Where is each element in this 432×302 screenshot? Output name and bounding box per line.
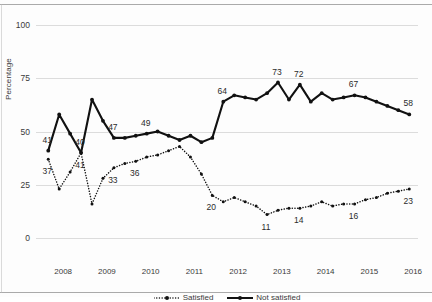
x-tick-2012: 2012 (229, 267, 247, 276)
marker (90, 98, 94, 102)
marker (353, 202, 356, 205)
marker (210, 136, 214, 140)
data-label-47: 47 (108, 122, 117, 132)
marker (112, 136, 116, 140)
solid-line-icon (227, 294, 253, 302)
marker (375, 100, 379, 104)
marker (309, 205, 312, 208)
marker (342, 96, 346, 100)
marker (342, 202, 345, 205)
marker (145, 156, 148, 159)
marker (178, 145, 181, 148)
marker (255, 205, 258, 208)
data-label-64: 64 (218, 86, 227, 96)
marker (396, 108, 400, 112)
x-tick-2014: 2014 (317, 267, 335, 276)
data-label-72: 72 (294, 69, 303, 79)
x-tick-2008: 2008 (54, 267, 72, 276)
x-tick-2013: 2013 (273, 267, 291, 276)
y-tick-75: 75 (21, 73, 30, 83)
page-left-rule (1, 4, 2, 293)
gridline-0 (36, 238, 418, 239)
marker (200, 140, 204, 144)
marker (266, 213, 269, 216)
y-tick-100: 100 (16, 20, 30, 30)
marker (320, 200, 323, 203)
marker (244, 200, 247, 203)
legend-item-satisfied[interactable]: Satisfied (154, 293, 214, 302)
marker (69, 170, 72, 173)
marker (408, 188, 411, 191)
page-top-rule (0, 4, 432, 5)
data-label-36: 36 (130, 168, 139, 178)
legend-label: Satisfied (183, 293, 214, 302)
marker (57, 113, 61, 117)
y-tick-25: 25 (21, 180, 30, 190)
marker (375, 196, 378, 199)
x-tick-2016: 2016 (404, 267, 422, 276)
marker (101, 119, 105, 123)
data-label-20: 20 (207, 202, 216, 212)
legend-item-not-satisfied[interactable]: Not satisfied (227, 293, 300, 302)
marker (58, 188, 61, 191)
data-label-11: 11 (262, 222, 271, 232)
marker (232, 93, 236, 97)
data-label-41: 41 (43, 135, 52, 145)
marker (243, 96, 247, 100)
data-label-40: 40 (75, 137, 84, 147)
line-not-satisfied (48, 83, 409, 153)
data-label-14: 14 (294, 215, 303, 225)
data-label-41: 41 (75, 160, 84, 170)
data-label-73: 73 (272, 67, 281, 77)
marker (397, 190, 400, 193)
marker (298, 83, 302, 87)
marker (287, 98, 291, 102)
marker (189, 134, 193, 138)
marker (385, 104, 389, 108)
marker (167, 149, 170, 152)
y-tick-50: 50 (21, 127, 30, 137)
x-tick-2011: 2011 (186, 267, 203, 276)
marker (134, 160, 137, 163)
x-tick-2015: 2015 (361, 267, 379, 276)
marker (47, 158, 50, 161)
marker (287, 207, 290, 210)
marker (79, 151, 83, 155)
marker (331, 98, 335, 102)
data-label-58: 58 (404, 98, 413, 108)
x-tick-2010: 2010 (142, 267, 160, 276)
y-axis-title: Percentage (4, 58, 13, 100)
data-label-37: 37 (43, 166, 52, 176)
marker (233, 196, 236, 199)
marker (221, 100, 225, 104)
marker (364, 198, 367, 201)
dotted-line-icon (154, 294, 180, 302)
marker (178, 138, 182, 142)
chart-legend: SatisfiedNot satisfied (36, 293, 418, 302)
data-label-49: 49 (141, 118, 150, 128)
legend-label: Not satisfied (256, 293, 300, 302)
marker (167, 134, 171, 138)
data-label-23: 23 (404, 196, 413, 206)
marker (331, 205, 334, 208)
marker (46, 149, 50, 153)
marker (91, 202, 94, 205)
x-tick-2009: 2009 (98, 267, 116, 276)
marker (156, 153, 159, 156)
marker (145, 132, 149, 136)
marker (123, 136, 127, 140)
marker (407, 113, 411, 117)
marker (320, 91, 324, 95)
marker (134, 134, 138, 138)
plot-area: 0255075100 20082009201020112012201320142… (36, 25, 418, 238)
marker (189, 156, 192, 159)
y-tick-0: 0 (25, 233, 30, 243)
marker (200, 173, 203, 176)
data-label-67: 67 (349, 79, 358, 89)
marker (254, 98, 258, 102)
marker (123, 162, 126, 165)
marker (68, 132, 72, 136)
data-label-33: 33 (108, 175, 117, 185)
marker (276, 209, 279, 212)
